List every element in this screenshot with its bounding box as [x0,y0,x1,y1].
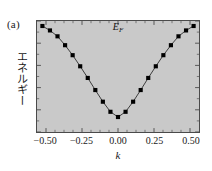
fermi-energy-subscript: F [119,26,123,34]
data-point [184,28,188,32]
dispersion-plot-svg [37,21,199,132]
data-point [48,28,52,32]
panel-label: (a) [7,19,20,30]
data-point [78,64,82,68]
data-point [63,43,67,47]
band-dispersion-markers [40,24,195,119]
data-point [55,34,59,38]
data-point [116,115,120,119]
figure-container: (a) エネルギー EF −0.50−0.250.000.250.50 k [0,0,212,171]
data-point [192,24,196,28]
data-point [146,76,150,80]
x-tick-label: 0.50 [182,135,200,147]
x-tick-label: 0.25 [146,135,164,147]
band-dispersion-line [42,26,193,117]
data-point [71,53,75,57]
data-point [86,76,90,80]
x-tick-label: −0.25 [70,135,93,147]
data-point [169,43,173,47]
data-point [123,110,127,114]
data-point [176,34,180,38]
data-point [108,110,112,114]
x-tick-label: 0.00 [109,135,127,147]
y-axis-label: エネルギー [14,38,30,118]
data-point [161,53,165,57]
fermi-energy-label: EF [113,22,123,34]
data-point [154,64,158,68]
x-axis-tick-labels: −0.50−0.250.000.250.50 [36,135,200,149]
data-point [93,88,97,92]
data-point [101,100,105,104]
x-axis-label: k [36,150,200,161]
data-point [139,88,143,92]
x-tick-label: −0.50 [34,135,57,147]
plot-area: EF [36,20,200,133]
data-point [131,100,135,104]
data-point [40,24,44,28]
